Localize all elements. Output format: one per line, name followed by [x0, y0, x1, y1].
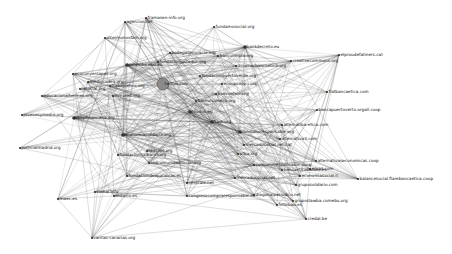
node-label: centrale.net [189, 180, 215, 185]
node-label: caritas-canarias.org [94, 235, 136, 240]
node-label: bankdecreto.eu [247, 44, 280, 49]
graph-edge [146, 18, 212, 122]
node-label: congresocompraresponsable.es [189, 193, 256, 198]
node-label: twitter.com [165, 81, 189, 86]
node-label: ecoconversapez.org [75, 71, 117, 76]
node-label: eldiario.es [116, 193, 138, 198]
node-label: economiasocial.it [302, 173, 339, 178]
node-label: gruposlawba.comebu.org [295, 198, 349, 203]
node-label: elproudefatiners.cat [341, 52, 384, 57]
node-label: fundaciondeepalabras.es [129, 173, 182, 178]
node-label: fundacionpuertoverde.org [202, 73, 257, 78]
node-label: agenzon.net [127, 19, 153, 24]
node-label: alternatiba-etica.com [284, 122, 329, 127]
node-label: credal.be [308, 216, 328, 221]
node-label: alternativa3.com [282, 136, 318, 141]
node-label: educacionalhermes.org [44, 93, 93, 98]
node-label: balancesocial.fiarebancaetica.coop [360, 176, 434, 181]
node-label: consumoresponsable.org [242, 129, 295, 134]
node-label: alternativaseconomicas.coop [318, 158, 380, 163]
node-label: redcomunidadsocial.org [151, 160, 202, 165]
node-label: inmonet.org [115, 93, 141, 98]
node-label: framasen-info.org [148, 15, 186, 20]
node-label: fundacionjustaduc.org [160, 59, 207, 64]
node-label: bancapuertoverto.orgall.coop [319, 107, 381, 112]
node-label: trabajoetico.org [112, 83, 146, 88]
network-graph: framasen-info.orgagenzon.netfundamosocia… [0, 0, 452, 254]
node-label: lasocial.org [82, 86, 106, 91]
node-label: coopfinanciera.org [76, 115, 115, 120]
node-label: triodos.es [192, 109, 213, 114]
node-label: maec.es [60, 196, 78, 201]
node-label: jovenesymedio.org [23, 112, 64, 117]
node-label: fiare.org [214, 119, 232, 124]
node-label: bodegasenoracle.org [172, 50, 217, 55]
node-label: fiatbancaetica.com [329, 89, 369, 94]
node-label: bancoetico.org [218, 91, 249, 96]
node-label: justicialmadrid.org [21, 145, 61, 150]
node-label: bancaeticabalaeo.es [284, 167, 327, 172]
node-label: economiasolidaria.org [125, 132, 172, 137]
graph-edge [58, 199, 92, 238]
node-label: creativecommons.org [293, 58, 339, 63]
node-label: fetbibao.es [279, 202, 302, 207]
node-label: setembe.ehu.es [129, 62, 163, 67]
node-label: mercadosocial.net [237, 175, 276, 180]
node-label: ecoopcoop.coop [224, 81, 259, 86]
node-label: diagonalperiodico.net [256, 192, 302, 197]
node-label: reasnet.org [149, 148, 173, 153]
graph-edge [58, 118, 74, 199]
node-label: gruposolidario.com [298, 182, 338, 187]
node-label: bancolimpia.org [220, 53, 254, 58]
node-label: ptbu.org [240, 151, 258, 156]
node-label: fiaresocioseco.org [198, 98, 236, 103]
node-label: intermonoxfam.org [107, 35, 148, 40]
node-label: mercadosocial.net.cat [246, 142, 293, 147]
node-label: fundamosocial.org [216, 24, 255, 29]
node-label: dinamarbancoetica.org [238, 63, 287, 68]
labels-layer: framasen-info.orgagenzon.netfundamosocia… [21, 15, 434, 240]
